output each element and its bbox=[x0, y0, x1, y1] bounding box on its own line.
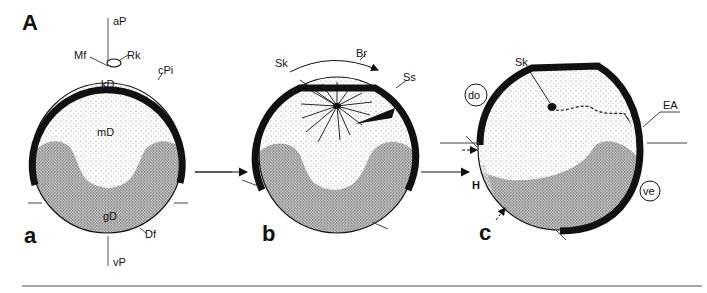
label-Rk: Rk bbox=[127, 49, 141, 61]
panel-label-b: b bbox=[262, 221, 275, 246]
label-mD: mD bbox=[97, 126, 114, 138]
label-Sk-b: Sk bbox=[275, 57, 288, 69]
panel-label-c: c bbox=[479, 220, 491, 245]
panel-a: aP Mf Rk cPi kD mD gD Df vP a bbox=[24, 15, 232, 268]
label-vP: vP bbox=[113, 256, 126, 268]
label-do: do bbox=[468, 89, 480, 101]
label-ve: ve bbox=[643, 185, 655, 197]
label-Mf: Mf bbox=[74, 49, 87, 61]
label-cPi: cPi bbox=[158, 64, 173, 76]
panel-label-a: a bbox=[24, 223, 37, 248]
panel-b: Sk Br Ss b bbox=[242, 47, 425, 246]
label-kD: kD bbox=[101, 78, 115, 90]
figure-title: A bbox=[22, 10, 38, 35]
panel-c: do ve Sk EA H c bbox=[440, 56, 687, 245]
figure-canvas: A aP Mf Rk cPi kD mD gD Df vP a bbox=[0, 0, 707, 293]
label-aP: aP bbox=[113, 15, 126, 27]
label-Df: Df bbox=[145, 228, 157, 240]
label-EA: EA bbox=[663, 99, 678, 111]
label-Sk-c: Sk bbox=[515, 56, 528, 68]
label-H: H bbox=[472, 179, 480, 191]
label-gD: gD bbox=[103, 210, 117, 222]
label-Ss: Ss bbox=[403, 71, 416, 83]
label-Br: Br bbox=[356, 47, 367, 59]
